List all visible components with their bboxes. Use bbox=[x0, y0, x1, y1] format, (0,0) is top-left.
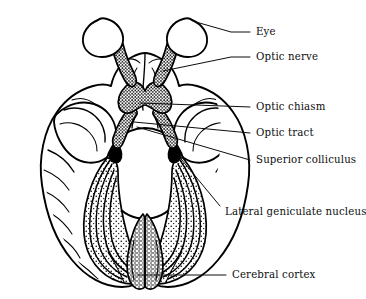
label-lateral-geniculate-nucleus: Lateral geniculate nucleus bbox=[225, 206, 366, 217]
label-optic-tract: Optic tract bbox=[256, 127, 314, 138]
eye-right bbox=[167, 18, 207, 57]
label-eye: Eye bbox=[256, 26, 276, 37]
eyeball-right bbox=[167, 18, 207, 57]
label-cerebral-cortex: Cerebral cortex bbox=[232, 269, 316, 280]
label-optic-nerve: Optic nerve bbox=[256, 51, 318, 62]
eye-left bbox=[83, 18, 123, 57]
leader-optic-nerve bbox=[163, 57, 250, 71]
label-optic-chiasm: Optic chiasm bbox=[256, 101, 326, 112]
brain-diagram-svg: Eye Optic nerve Optic chiasm Optic tract… bbox=[0, 0, 366, 299]
eyeball-left bbox=[83, 18, 123, 57]
label-superior-colliculus: Superior colliculus bbox=[256, 154, 356, 165]
figure-visual-pathway: Eye Optic nerve Optic chiasm Optic tract… bbox=[0, 0, 366, 299]
